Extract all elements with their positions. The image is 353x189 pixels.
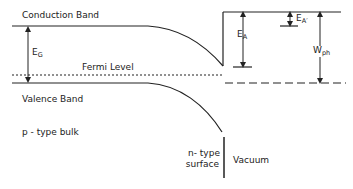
- fermi-level-label: Fermi Level: [82, 63, 134, 72]
- eg-label: EG: [32, 48, 43, 59]
- vacuum-label: Vacuum: [233, 156, 269, 165]
- n-type-line1: n- type: [188, 149, 219, 158]
- eap-label: EA′: [296, 14, 308, 25]
- ea-sub: A: [243, 33, 247, 41]
- ea-label: EA: [237, 30, 247, 41]
- wph-label: Wph: [313, 46, 330, 57]
- wph-sub: ph: [322, 49, 330, 57]
- eg-sub: G: [38, 51, 43, 59]
- valence-band-label: Valence Band: [22, 95, 83, 104]
- conduction-band-label: Conduction Band: [22, 11, 99, 20]
- p-type-bulk-label: p - type bulk: [22, 128, 79, 137]
- eap-sub: A′: [302, 17, 308, 25]
- valence-band-line: [12, 83, 222, 132]
- conduction-band-line: [12, 26, 223, 66]
- n-type-line2: surface: [183, 160, 219, 169]
- wph-main: W: [313, 45, 322, 55]
